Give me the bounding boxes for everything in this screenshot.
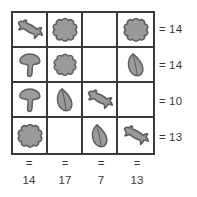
grid-cell-r2c3[interactable] xyxy=(83,48,118,83)
row-sum-1: = 14 xyxy=(159,11,197,47)
equals-sign: = xyxy=(134,157,141,170)
grid-cell-r1c2[interactable] xyxy=(48,13,83,48)
grid-cell-r4c2[interactable] xyxy=(48,118,83,153)
column-sum-value: 14 xyxy=(23,174,36,187)
column-sum-value: 7 xyxy=(98,174,104,187)
equals-sign: = xyxy=(159,59,166,71)
row-sum-value: 13 xyxy=(169,131,182,143)
row-sum-2: = 14 xyxy=(159,47,197,83)
grid-cell-r2c1[interactable] xyxy=(13,48,48,83)
puzzle-grid xyxy=(11,11,155,155)
grid-cell-r2c4[interactable] xyxy=(118,48,153,83)
column-sum-3: = 7 xyxy=(83,157,119,195)
column-sum-1: = 14 xyxy=(11,157,47,195)
equals-sign: = xyxy=(159,95,166,107)
column-sum-value: 13 xyxy=(131,174,144,187)
equals-sign: = xyxy=(98,157,105,170)
grid-cell-r4c4[interactable] xyxy=(118,118,153,153)
row-sum-4: = 13 xyxy=(159,119,197,155)
column-sum-value: 17 xyxy=(59,174,72,187)
column-sum-4: = 13 xyxy=(119,157,155,195)
leaf-icon xyxy=(86,122,114,150)
row-sum-3: = 10 xyxy=(159,83,197,119)
equals-sign: = xyxy=(62,157,69,170)
equals-sign: = xyxy=(159,131,166,143)
column-sum-labels: = 14 = 17 = 7 = 13 xyxy=(11,157,155,195)
equals-sign: = xyxy=(159,23,166,35)
flower-icon xyxy=(16,122,44,150)
flower-icon xyxy=(122,16,150,44)
row-sum-labels: = 14 = 14 = 10 = 13 xyxy=(159,11,197,155)
grid-cell-r1c1[interactable] xyxy=(13,13,48,48)
grid-cell-r4c3[interactable] xyxy=(83,118,118,153)
row-sum-value: 10 xyxy=(169,95,182,107)
row-sum-value: 14 xyxy=(169,59,182,71)
bird-icon xyxy=(85,85,115,115)
flower-icon xyxy=(52,52,78,78)
grid-cell-r1c3[interactable] xyxy=(83,13,118,48)
shape-sum-puzzle: = 14 = 14 = 10 = 13 = 14 = 17 = 7 = xyxy=(0,0,197,197)
equals-sign: = xyxy=(26,157,33,170)
grid-cell-r3c4[interactable] xyxy=(118,83,153,118)
leaf-icon xyxy=(122,51,150,79)
grid-cell-r3c2[interactable] xyxy=(48,83,83,118)
grid-cell-r4c1[interactable] xyxy=(13,118,48,153)
leaf-icon xyxy=(51,86,79,114)
grid-cell-r3c1[interactable] xyxy=(13,83,48,118)
row-sum-value: 14 xyxy=(169,23,182,35)
flower-icon xyxy=(51,16,79,44)
bird-icon xyxy=(121,121,151,151)
grid-cell-r1c4[interactable] xyxy=(118,13,153,48)
grid-cell-r3c3[interactable] xyxy=(83,83,118,118)
bird-icon xyxy=(15,15,45,45)
grid-cell-r2c2[interactable] xyxy=(48,48,83,83)
column-sum-2: = 17 xyxy=(47,157,83,195)
mushroom-icon xyxy=(16,86,44,114)
mushroom-icon xyxy=(16,51,44,79)
